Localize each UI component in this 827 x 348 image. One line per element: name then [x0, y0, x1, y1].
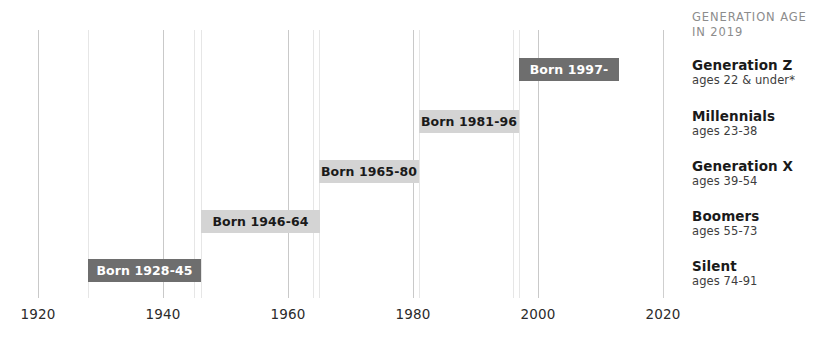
legend-entry[interactable]: Millennialsages 23-38	[692, 108, 827, 139]
legend-entry-name: Millennials	[692, 108, 827, 124]
generation-bar[interactable]: Born 1928-45	[88, 259, 201, 282]
generation-bar[interactable]: Born 1981-96	[419, 110, 519, 133]
legend-title: Generation age in 2019	[692, 10, 827, 40]
x-axis-tick-label: 2000	[520, 306, 555, 322]
legend-entry-ages: ages 23-38	[692, 124, 827, 139]
legend-entry-name: Generation X	[692, 158, 827, 174]
generation-bar-label: Born 1997-	[530, 62, 609, 77]
generation-bar[interactable]: Born 1946-64	[201, 210, 320, 233]
x-axis-tick-label: 1980	[395, 306, 430, 322]
generation-bar-label: Born 1946-64	[212, 214, 308, 229]
gridline-minor	[419, 30, 420, 298]
gridline-major	[38, 30, 39, 298]
gridline-minor	[313, 30, 314, 298]
generation-bar[interactable]: Born 1965-80	[319, 160, 419, 183]
legend-panel: Generation age in 2019 Generation Zages …	[663, 0, 827, 348]
legend-entry-ages: ages 74-91	[692, 274, 827, 289]
generation-timeline-chart: Born 1997-Born 1981-96Born 1965-80Born 1…	[0, 0, 827, 348]
generation-bar-label: Born 1965-80	[321, 164, 417, 179]
legend-entry[interactable]: Generation Zages 22 & under*	[692, 57, 827, 88]
legend-entry-ages: ages 55-73	[692, 224, 827, 239]
gridline-minor	[88, 30, 89, 298]
legend-title-line-1: Generation age	[692, 10, 807, 24]
legend-entry-name: Silent	[692, 258, 827, 274]
legend-entry[interactable]: Boomersages 55-73	[692, 208, 827, 239]
legend-divider	[663, 40, 664, 298]
legend-title-line-2: in 2019	[692, 25, 743, 39]
x-axis-tick-label: 1940	[145, 306, 180, 322]
gridline-minor	[201, 30, 202, 298]
legend-entry-ages: ages 22 & under*	[692, 73, 827, 88]
gridline-minor	[513, 30, 514, 298]
gridline-minor	[194, 30, 195, 298]
x-axis-tick-label: 1960	[270, 306, 305, 322]
x-axis-tick-label: 1920	[20, 306, 55, 322]
plot-area: Born 1997-Born 1981-96Born 1965-80Born 1…	[0, 0, 663, 348]
legend-entry-ages: ages 39-54	[692, 174, 827, 189]
generation-bar-label: Born 1928-45	[96, 263, 192, 278]
generation-bar[interactable]: Born 1997-	[519, 58, 619, 81]
legend-entry[interactable]: Silentages 74-91	[692, 258, 827, 289]
legend-entry-name: Boomers	[692, 208, 827, 224]
generation-bar-label: Born 1981-96	[421, 114, 517, 129]
legend-entry[interactable]: Generation Xages 39-54	[692, 158, 827, 189]
gridline-major	[163, 30, 164, 298]
legend-entry-name: Generation Z	[692, 57, 827, 73]
gridline-major	[288, 30, 289, 298]
